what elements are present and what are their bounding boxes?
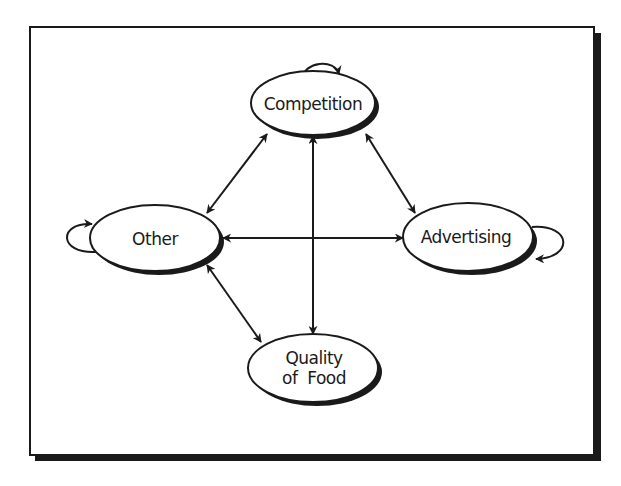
- node-label-competition: Competition: [264, 94, 363, 114]
- diagram-canvas: Competition Other Advertising Quality of…: [0, 0, 621, 486]
- node-label-quality-line1: Quality: [285, 348, 343, 368]
- node-label-other: Other: [132, 229, 178, 249]
- node-label-advertising: Advertising: [421, 227, 512, 247]
- node-label-quality-line2: of Food: [282, 368, 346, 388]
